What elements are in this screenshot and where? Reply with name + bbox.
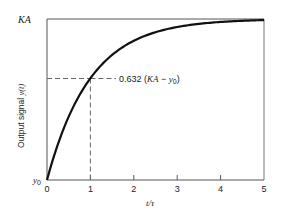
x-axis-title: t/τ <box>146 198 155 208</box>
svg-text:2: 2 <box>131 184 136 194</box>
x-axis-ticks <box>90 175 220 180</box>
plot-frame <box>47 19 264 180</box>
svg-text:3: 3 <box>175 184 180 194</box>
response-curve <box>47 20 264 180</box>
annotation-632: 0.632 (KA − y0) <box>119 74 180 85</box>
step-response-chart: KA y0 Output signal y(t) 0 1 2 3 4 5 t/τ… <box>0 0 282 212</box>
y-label-y0: y0 <box>32 175 41 186</box>
svg-text:4: 4 <box>218 184 223 194</box>
svg-text:5: 5 <box>261 184 266 194</box>
x-tick-labels: 0 1 2 3 4 5 <box>44 184 266 194</box>
y-label-ka: KA <box>17 14 32 25</box>
svg-text:1: 1 <box>88 184 93 194</box>
svg-text:y0: y0 <box>32 175 41 186</box>
svg-text:0: 0 <box>44 184 49 194</box>
y-axis-title: Output signal y(t) <box>16 84 26 148</box>
